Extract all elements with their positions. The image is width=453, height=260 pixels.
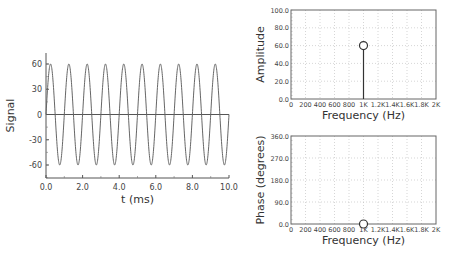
y-tick-label: 0 bbox=[37, 111, 42, 120]
x-tick-label: 400 bbox=[314, 226, 326, 234]
x-tick-label: 0 bbox=[289, 226, 293, 234]
y-tick-label: 360.0 bbox=[270, 133, 289, 141]
x-tick-label: 200 bbox=[299, 226, 311, 234]
x-tick-label: 0.0 bbox=[40, 183, 53, 192]
y-tick-label: 60 bbox=[32, 60, 42, 69]
data-point-marker bbox=[360, 42, 368, 50]
x-tick-label: 6.0 bbox=[149, 183, 162, 192]
y-tick-label: -30 bbox=[29, 136, 42, 145]
x-tick-label: 200 bbox=[299, 101, 311, 109]
x-tick-label: 1.4K bbox=[385, 226, 400, 234]
amplitude-spectrum-chart: 100.080.060.040.020.00.002004006008001K1… bbox=[254, 7, 441, 123]
x-tick-label: 1.8K bbox=[414, 101, 429, 109]
y-tick-label: 30 bbox=[32, 85, 42, 94]
y-axis-label: Phase (degrees) bbox=[254, 135, 267, 224]
x-axis-label: Frequency (Hz) bbox=[322, 109, 405, 122]
x-tick-label: 1.6K bbox=[400, 101, 415, 109]
y-tick-label: 0.0 bbox=[279, 96, 289, 104]
y-tick-label: 90.0 bbox=[275, 199, 289, 207]
y-axis-label: Signal bbox=[4, 99, 17, 133]
y-tick-label: -60 bbox=[29, 161, 42, 170]
x-tick-label: 2K bbox=[432, 226, 441, 234]
x-tick-label: 800 bbox=[343, 226, 355, 234]
y-tick-label: 270.0 bbox=[270, 155, 289, 163]
y-tick-label: 20.0 bbox=[275, 78, 289, 86]
y-tick-label: 60.0 bbox=[275, 42, 289, 50]
x-tick-label: 8.0 bbox=[186, 183, 199, 192]
y-axis-label: Amplitude bbox=[254, 26, 267, 83]
x-tick-label: 400 bbox=[314, 101, 326, 109]
phase-spectrum-chart: 360.0270.0180.090.00.002004006008001K1.2… bbox=[254, 133, 441, 248]
x-tick-label: 4.0 bbox=[113, 183, 126, 192]
x-axis-label: Frequency (Hz) bbox=[322, 234, 405, 247]
x-tick-label: 1.6K bbox=[400, 226, 415, 234]
x-tick-label: 1.8K bbox=[414, 226, 429, 234]
x-tick-label: 600 bbox=[328, 226, 340, 234]
chart-canvas: 60300-30-600.02.04.06.08.010.0t (ms)Sign… bbox=[0, 0, 453, 260]
y-tick-label: 180.0 bbox=[270, 177, 289, 185]
y-tick-label: 0.0 bbox=[279, 221, 289, 229]
x-tick-label: 1.4K bbox=[385, 101, 400, 109]
x-axis-label: t (ms) bbox=[121, 193, 154, 206]
x-tick-label: 1.2K bbox=[371, 101, 386, 109]
x-tick-label: 1K bbox=[359, 101, 368, 109]
x-tick-label: 1.2K bbox=[371, 226, 386, 234]
y-tick-label: 40.0 bbox=[275, 60, 289, 68]
y-tick-label: 80.0 bbox=[275, 24, 289, 32]
x-tick-label: 2K bbox=[432, 101, 441, 109]
data-point-marker bbox=[360, 220, 368, 228]
x-tick-label: 10.0 bbox=[220, 183, 238, 192]
y-tick-label: 100.0 bbox=[270, 7, 289, 15]
x-tick-label: 2.0 bbox=[76, 183, 89, 192]
time-signal-chart: 60300-30-600.02.04.06.08.010.0t (ms)Sign… bbox=[4, 53, 238, 206]
x-tick-label: 800 bbox=[343, 101, 355, 109]
signal-line bbox=[46, 64, 229, 165]
x-tick-label: 0 bbox=[289, 101, 293, 109]
x-tick-label: 600 bbox=[328, 101, 340, 109]
